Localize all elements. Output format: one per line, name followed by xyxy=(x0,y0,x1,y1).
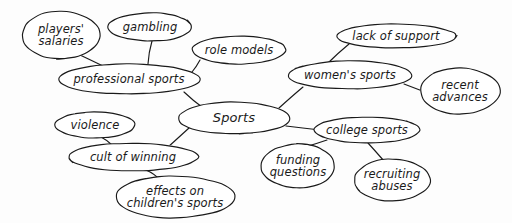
node-role-models[interactable] xyxy=(192,36,286,64)
concept-map-canvas: players' salariesgamblingrole modelsprof… xyxy=(0,0,512,223)
node-players-salaries[interactable] xyxy=(22,11,100,59)
node-violence[interactable] xyxy=(55,112,135,138)
concept-edge xyxy=(148,41,152,64)
node-professional-sports[interactable] xyxy=(58,64,200,94)
node-sports[interactable] xyxy=(178,102,290,134)
node-gambling[interactable] xyxy=(108,13,192,41)
node-funding-questions[interactable] xyxy=(261,144,335,188)
node-cult-of-winning[interactable] xyxy=(68,143,198,171)
node-effects-on-childrens-sports[interactable] xyxy=(115,176,235,218)
node-recruiting-abuses[interactable] xyxy=(354,159,430,201)
node-college-sports[interactable] xyxy=(314,117,420,143)
node-womens-sports[interactable] xyxy=(288,61,412,89)
node-lack-of-support[interactable] xyxy=(336,24,456,48)
node-recent-advances[interactable] xyxy=(420,68,500,114)
